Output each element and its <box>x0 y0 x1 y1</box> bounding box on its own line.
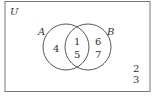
intersection-element: 5 <box>74 49 80 60</box>
b-only-element: 6 <box>95 36 101 47</box>
intersection-element: 1 <box>74 36 80 47</box>
a-only-element: 4 <box>53 43 59 54</box>
set-b-label: B <box>106 26 114 37</box>
venn-diagram: U A B 4 1 5 6 7 2 3 <box>0 0 156 96</box>
outside-element: 3 <box>133 74 139 85</box>
b-only-element: 7 <box>95 49 101 60</box>
set-a-label: A <box>37 26 45 37</box>
universe-label: U <box>10 6 19 17</box>
outside-element: 2 <box>133 63 139 74</box>
